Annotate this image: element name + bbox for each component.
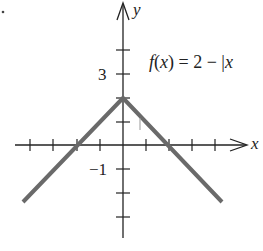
x-axis-label: x (251, 135, 259, 152)
func-x: x (160, 52, 168, 72)
y-axis-label: y (133, 1, 141, 18)
y-tick-label-neg1: −1 (89, 161, 107, 178)
func-eq: ) = 2 − | (168, 52, 225, 72)
stray-dot (2, 11, 5, 14)
function-graph (0, 0, 263, 251)
func-x2: x (225, 52, 233, 72)
function-annotation: f(x) = 2 − |x (149, 53, 233, 71)
y-tick-label-3: 3 (98, 66, 107, 83)
